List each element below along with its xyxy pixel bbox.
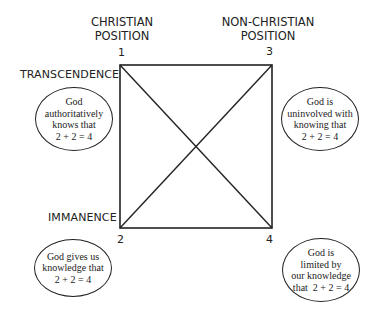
bubble-line: knowledge that bbox=[42, 262, 103, 274]
bubble-line: knowing that bbox=[287, 119, 352, 131]
non-christian-position-header: NON-CHRISTIAN POSITION bbox=[198, 15, 338, 43]
transcendence-label: TRANSCENDENCE bbox=[20, 68, 119, 81]
bubble-line: 2 + 2 = 4 bbox=[42, 274, 103, 286]
corner-4-label: 4 bbox=[266, 233, 273, 246]
header-line: CHRISTIAN bbox=[52, 15, 192, 29]
bubble-line: limited by bbox=[291, 259, 351, 271]
bubble-christian-immanence: God gives us knowledge that 2 + 2 = 4 bbox=[34, 239, 112, 297]
header-line: POSITION bbox=[198, 29, 338, 43]
bubble-line: God is bbox=[291, 247, 351, 259]
corner-1-label: 1 bbox=[118, 46, 125, 59]
bubble-christian-transcendence: God authoritatively knows that 2 + 2 = 4 bbox=[35, 87, 113, 151]
header-line: NON-CHRISTIAN bbox=[198, 15, 338, 29]
bubble-line: God is bbox=[287, 96, 352, 108]
immanence-label: IMMANENCE bbox=[48, 211, 117, 224]
bubble-line: God gives us bbox=[42, 251, 103, 263]
corner-3-label: 3 bbox=[266, 45, 273, 58]
christian-position-header: CHRISTIAN POSITION bbox=[52, 15, 192, 43]
bubble-nonchristian-transcendence: God is uninvolved with knowing that 2 + … bbox=[281, 87, 359, 151]
bubble-line: our knowledge bbox=[291, 270, 351, 282]
bubble-nonchristian-immanence: God is limited by our knowledge that 2 +… bbox=[282, 238, 360, 302]
bubble-line: 2 + 2 = 4 bbox=[287, 131, 352, 143]
bubble-line: uninvolved with bbox=[287, 108, 352, 120]
header-line: POSITION bbox=[52, 29, 192, 43]
corner-2-label: 2 bbox=[117, 233, 124, 246]
bubble-line: God authoritatively bbox=[36, 96, 112, 119]
bubble-line: knows that bbox=[36, 119, 112, 131]
bubble-line: 2 + 2 = 4 bbox=[36, 131, 112, 143]
bubble-line: that 2 + 2 = 4 bbox=[291, 282, 351, 294]
